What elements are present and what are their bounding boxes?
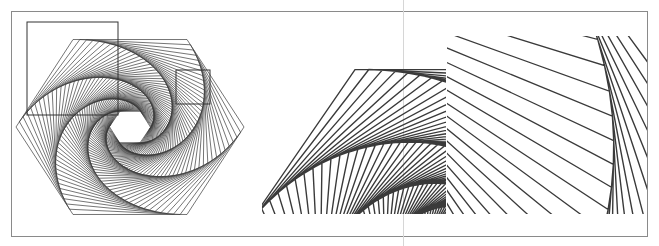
whirl-lines <box>16 40 244 215</box>
inset-small-detail <box>447 36 647 214</box>
detail-box-large <box>27 22 118 115</box>
inset-large-detail <box>262 36 446 214</box>
whirl-lines <box>262 70 446 214</box>
whirl-lines <box>447 36 647 214</box>
